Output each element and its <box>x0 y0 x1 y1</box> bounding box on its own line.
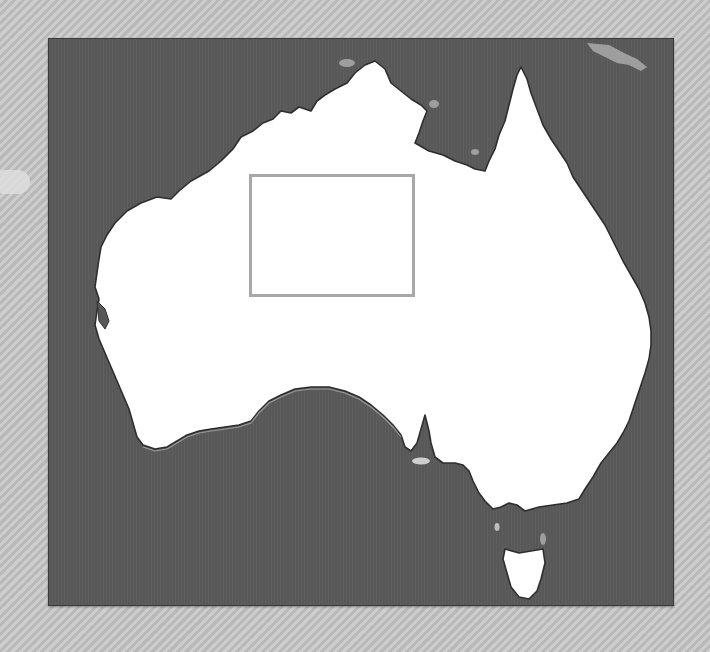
island <box>429 100 439 108</box>
tasmania <box>503 549 545 599</box>
island <box>540 533 546 545</box>
background-decoration <box>0 170 30 194</box>
island <box>495 523 500 531</box>
island <box>339 59 355 67</box>
new-guinea-landmass <box>587 43 647 71</box>
map-view[interactable] <box>48 38 674 606</box>
kangaroo-island <box>412 458 430 465</box>
selection-rectangle[interactable] <box>249 174 415 297</box>
island <box>471 149 479 155</box>
australia-map <box>49 39 673 605</box>
